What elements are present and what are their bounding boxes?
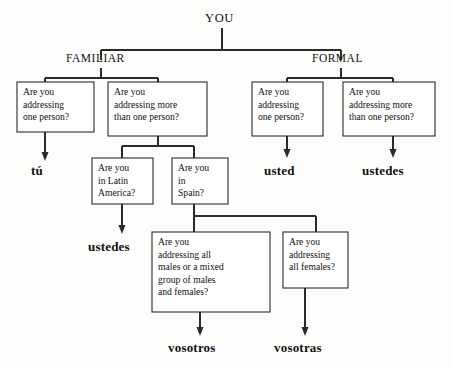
answer-usted: usted: [264, 163, 295, 179]
question-line: Are you: [23, 86, 89, 99]
arrowhead-usted: [284, 149, 291, 158]
question-line: Are you: [258, 86, 318, 99]
question-all-males-or-mixed: Are you addressing all males or a mixed …: [152, 232, 270, 312]
question-line: males or a mixed: [158, 261, 265, 274]
question-line: group of males: [158, 274, 265, 287]
question-line: one person?: [258, 111, 318, 124]
branch-label-familiar: FAMILIAR: [66, 52, 125, 64]
arrowhead-tu: [42, 152, 49, 161]
question-line: addressing all: [158, 249, 265, 262]
question-line: Are you: [349, 86, 430, 99]
question-line: Are you: [114, 86, 202, 99]
answer-vosotras: vosotras: [274, 340, 322, 356]
question-line: addressing: [258, 99, 318, 112]
branch-label-formal: FORMAL: [312, 52, 363, 64]
question-familiar-more-than-one: Are you addressing more than one person?: [108, 82, 207, 136]
arrowhead-ustedes-latin: [119, 225, 126, 234]
question-line: Spain?: [178, 187, 223, 200]
question-line: all females?: [289, 261, 343, 274]
question-line: America?: [98, 187, 148, 200]
question-line: addressing: [23, 99, 89, 112]
question-familiar-one-person: Are you addressing one person?: [17, 82, 94, 132]
question-line: Are you: [98, 162, 148, 175]
question-line: one person?: [23, 111, 89, 124]
root-label-you: YOU: [205, 11, 234, 26]
question-in-spain: Are you in Spain?: [172, 158, 228, 204]
question-line: in: [178, 175, 223, 188]
arrowhead-vosotros: [197, 327, 204, 336]
answer-vosotros: vosotros: [168, 340, 216, 356]
question-line: than one person?: [114, 111, 202, 124]
question-formal-more-than-one: Are you addressing more than one person?: [343, 82, 435, 136]
question-formal-one-person: Are you addressing one person?: [252, 82, 323, 136]
answer-ustedes-latin: ustedes: [88, 239, 130, 255]
question-line: addressing more: [114, 99, 202, 112]
question-line: Are you: [178, 162, 223, 175]
question-in-latin-america: Are you in Latin America?: [92, 158, 153, 204]
question-all-females: Are you addressing all females?: [283, 232, 348, 288]
answer-tu: tú: [31, 163, 43, 179]
arrowhead-ustedes-formal: [390, 149, 397, 158]
question-line: Are you: [289, 236, 343, 249]
flowchart-canvas: YOU FAMILIAR FORMAL Are you addressing o…: [0, 0, 453, 368]
question-line: addressing: [289, 249, 343, 262]
question-line: in Latin: [98, 175, 148, 188]
question-line: and females?: [158, 286, 265, 299]
question-line: Are you: [158, 236, 265, 249]
question-line: than one person?: [349, 111, 430, 124]
arrowhead-vosotras: [302, 327, 309, 336]
answer-ustedes-formal: ustedes: [362, 163, 404, 179]
question-line: addressing more: [349, 99, 430, 112]
